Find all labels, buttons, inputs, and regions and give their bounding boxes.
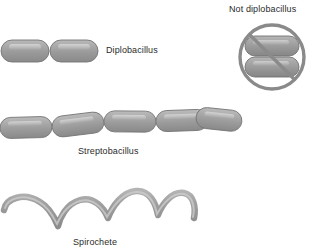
streptobacillus-figure: [0, 100, 238, 144]
streptobacillus-label: Streptobacillus: [78, 146, 139, 157]
diplobacillus-label: Diplobacillus: [106, 45, 158, 56]
streptobacillus-rod-3: [104, 111, 156, 132]
diplobacillus-rod-2: [50, 40, 98, 62]
spirochete-filament: [4, 191, 195, 226]
not-diplobacillus-figure: [228, 14, 315, 96]
bacteria-morphology-diagram: Diplobacillus Not diplobacillus: [0, 0, 315, 252]
streptobacillus-rod-2: [51, 111, 105, 138]
spirochete-figure: [0, 182, 200, 236]
spirochete-label: Spirochete: [73, 237, 117, 248]
streptobacillus-rod-1: [0, 116, 52, 138]
diplobacillus-figure: [0, 34, 102, 68]
diplobacillus-rod-1: [1, 40, 49, 62]
